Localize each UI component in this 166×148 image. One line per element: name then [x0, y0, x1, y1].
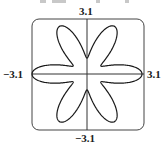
x-max-label: 3.1: [147, 69, 161, 80]
x-min-label: −3.1: [3, 69, 23, 80]
y-min-label: −3.1: [75, 133, 95, 144]
polar-plot: [0, 0, 166, 148]
y-max-label: 3.1: [79, 6, 93, 17]
